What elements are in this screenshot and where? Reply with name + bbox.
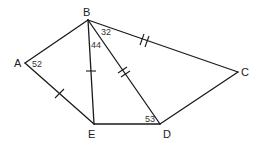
angle-label-edb: 53 xyxy=(145,114,155,124)
vertex-label-b: B xyxy=(83,6,90,18)
segment-ab xyxy=(25,20,88,63)
vertex-label-d: D xyxy=(163,128,171,140)
angle-label-ebd: 44 xyxy=(91,40,101,50)
segment-cd xyxy=(160,72,238,124)
segment-bd xyxy=(88,20,160,124)
angle-label-dbc: 32 xyxy=(101,27,111,37)
vertex-label-e: E xyxy=(88,128,95,140)
double-tick-mark-bd-1 xyxy=(118,67,127,73)
vertex-label-c: C xyxy=(241,66,249,78)
angle-label-a: 52 xyxy=(32,59,42,69)
geometry-diagram: A B C D E 52 44 32 53 xyxy=(0,0,257,143)
vertex-label-a: A xyxy=(14,57,22,69)
segment-be xyxy=(88,20,94,124)
double-tick-mark-bd-2 xyxy=(121,71,130,77)
